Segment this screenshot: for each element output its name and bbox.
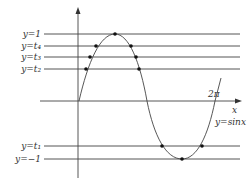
label-t2: y=t₂ bbox=[20, 64, 41, 74]
axes bbox=[40, 12, 236, 178]
sine-diagram: y=1 y=t₄ y=t₃ y=t₂ y=t₁ y=−1 2π x y=sinx bbox=[0, 0, 252, 186]
label-t1: y=t₁ bbox=[20, 141, 41, 151]
label-curve: y=sinx bbox=[214, 117, 246, 127]
y-axis-arrow-icon bbox=[76, 7, 81, 14]
label-y-minus-1: y=−1 bbox=[14, 154, 41, 164]
label-y-1: y=1 bbox=[22, 29, 41, 39]
x-axis-arrow-icon bbox=[235, 99, 242, 104]
label-t3: y=t₃ bbox=[20, 52, 41, 62]
intersection-points bbox=[84, 32, 204, 161]
label-x-axis: x bbox=[232, 105, 237, 115]
sine-curve bbox=[79, 34, 221, 159]
label-2pi: 2π bbox=[207, 89, 221, 99]
label-t4: y=t₄ bbox=[20, 41, 41, 51]
